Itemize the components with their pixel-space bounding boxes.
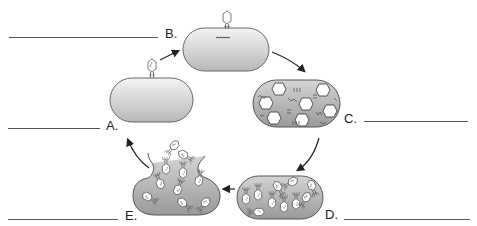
cell-b-injection — [183, 11, 269, 71]
answer-blank-e[interactable] — [8, 219, 118, 220]
answer-blank-a[interactable] — [8, 128, 100, 129]
phage-icon — [148, 59, 156, 78]
cell-e-lysis — [133, 139, 220, 215]
arrow-c-to-d — [298, 138, 319, 170]
arrow-a-to-b — [160, 51, 178, 60]
answer-blank-d[interactable] — [344, 219, 470, 220]
label-c: C. — [344, 112, 357, 125]
answer-blank-b[interactable] — [9, 37, 158, 38]
cell-d-assembly — [237, 176, 323, 219]
label-e: E. — [125, 209, 137, 222]
arrow-b-to-c — [272, 52, 304, 71]
arrow-e-to-a — [128, 140, 149, 168]
label-b: B. — [165, 27, 177, 40]
cell-c-synthesis — [253, 80, 340, 127]
label-a: A. — [106, 119, 118, 132]
label-d: D. — [325, 208, 338, 221]
answer-blank-c[interactable] — [364, 121, 468, 122]
lytic-cycle-diagram — [0, 0, 477, 226]
phage-icon — [223, 11, 231, 29]
cell-a-attachment — [110, 59, 193, 122]
